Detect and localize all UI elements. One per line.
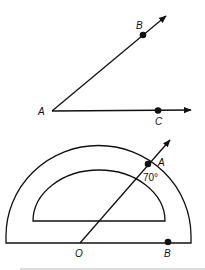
point-a [145, 161, 152, 168]
label-vertex-a: A [37, 106, 45, 117]
protractor-figure: A 70° O B [6, 140, 191, 259]
ray-oa [80, 140, 170, 243]
point-b-base [165, 239, 172, 246]
label-b-base: B [164, 248, 171, 259]
label-b: B [136, 20, 143, 31]
point-b [140, 32, 147, 39]
label-c: C [155, 116, 163, 127]
ray-ac [52, 110, 191, 111]
geometry-figure: A B C A 70° O B [0, 0, 205, 270]
label-a: A [157, 157, 165, 168]
angle-reading-label: 70° [143, 172, 158, 183]
angle-bac-figure: A B C [37, 16, 191, 127]
point-c [155, 107, 162, 114]
label-o: O [75, 248, 83, 259]
ray-ab [52, 16, 166, 111]
